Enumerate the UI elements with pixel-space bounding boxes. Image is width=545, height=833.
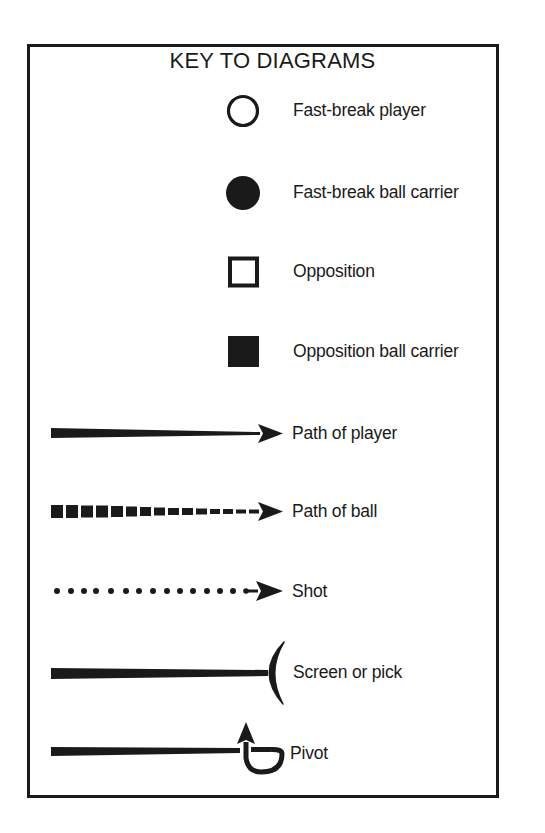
legend-label-fast-break-ball-carrier: Fast-break ball carrier	[293, 182, 459, 203]
legend-label-opposition-ball-carrier: Opposition ball carrier	[293, 341, 459, 362]
shot-arrow-icon	[54, 581, 283, 601]
open-circle-icon	[229, 97, 258, 126]
legend-label-pivot: Pivot	[290, 743, 328, 764]
legend-label-screen-or-pick: Screen or pick	[293, 662, 402, 683]
screen-or-pick-icon	[51, 642, 284, 704]
legend-label-path-of-player: Path of player	[292, 423, 397, 444]
legend-label-path-of-ball: Path of ball	[292, 501, 377, 522]
path-of-player-arrow-icon	[51, 424, 283, 443]
pivot-icon	[51, 722, 282, 772]
legend-symbols	[0, 0, 545, 833]
filled-circle-icon	[226, 176, 260, 210]
legend-label-opposition: Opposition	[293, 261, 375, 282]
legend-label-shot: Shot	[292, 581, 327, 602]
legend-label-fast-break-player: Fast-break player	[293, 100, 426, 121]
open-square-icon	[230, 259, 257, 286]
filled-square-icon	[228, 336, 259, 367]
path-of-ball-arrow-icon	[51, 502, 283, 521]
